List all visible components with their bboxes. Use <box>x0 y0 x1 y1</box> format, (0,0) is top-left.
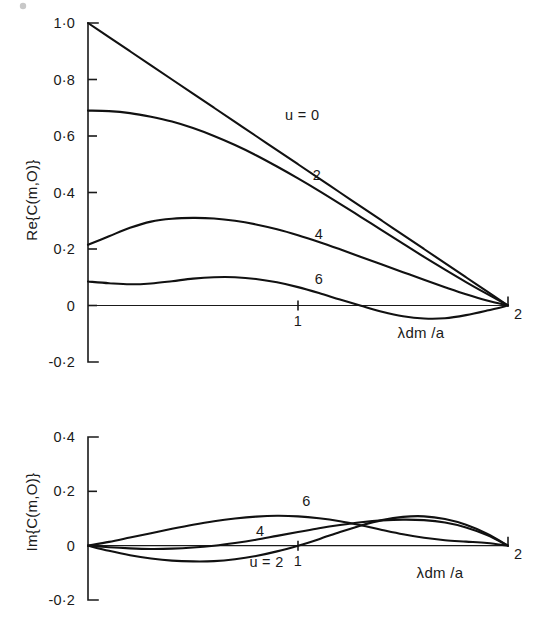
curve-label: 6 <box>315 271 323 287</box>
lower-x-tick-marks <box>298 537 508 551</box>
upper-y-axis-title: Re{C(m,O)} <box>23 159 40 240</box>
lower-x-tick-labels: 12 <box>294 546 522 569</box>
y-tick-label: 0·2 <box>53 241 75 257</box>
lower-y-tick-marks <box>88 491 97 545</box>
curve-u-4 <box>88 218 508 306</box>
figure-container: -0·200·20·40·60·81·0 12 u = 0246 λdm /a … <box>0 0 547 630</box>
curve-u-2 <box>88 111 508 306</box>
lower-panel-imaginary-part: -0·200·20·4 12 u = 246 λdm /a Im{C(m,O)} <box>23 429 522 608</box>
y-tick-label: -0·2 <box>48 354 75 370</box>
scan-speck <box>20 3 26 9</box>
x-tick-label: 2 <box>514 546 522 562</box>
y-tick-label: 0·4 <box>53 429 75 445</box>
upper-x-axis-title: λdm /a <box>398 324 445 341</box>
lower-x-axis-title: λdm /a <box>417 564 464 581</box>
x-tick-label: 2 <box>514 306 522 322</box>
upper-y-tick-labels: -0·200·20·40·60·81·0 <box>48 15 75 370</box>
curve-label: 2 <box>313 167 321 183</box>
y-tick-label: 1·0 <box>53 15 75 31</box>
upper-curve-labels: u = 0246 <box>285 107 323 287</box>
y-tick-label: 0·2 <box>53 483 75 499</box>
y-tick-label: -0·2 <box>48 592 75 608</box>
curve-label: u = 2 <box>249 554 283 570</box>
y-tick-label: 0·8 <box>53 72 75 88</box>
curve-label: u = 0 <box>285 107 319 123</box>
lower-y-tick-labels: -0·200·20·4 <box>48 429 75 608</box>
curve-label: 6 <box>302 493 310 509</box>
upper-y-tick-marks <box>88 80 97 306</box>
y-tick-label: 0 <box>67 538 75 554</box>
y-tick-label: 0 <box>67 298 75 314</box>
lower-y-axis-title: Im{C(m,O)} <box>23 473 40 552</box>
upper-panel-real-part: -0·200·20·40·60·81·0 12 u = 0246 λdm /a … <box>23 15 522 370</box>
lower-y-axis-line <box>88 437 98 600</box>
scientific-figure: -0·200·20·40·60·81·0 12 u = 0246 λdm /a … <box>0 0 547 630</box>
x-tick-label: 1 <box>294 313 302 329</box>
curve-label: 4 <box>315 226 323 242</box>
upper-curves-group <box>88 23 508 319</box>
x-tick-label: 1 <box>294 553 302 569</box>
upper-x-tick-marks <box>298 297 508 311</box>
curve-u-0 <box>88 23 508 306</box>
curve-label: 4 <box>256 523 264 539</box>
y-tick-label: 0·4 <box>53 185 75 201</box>
y-tick-label: 0·6 <box>53 128 75 144</box>
